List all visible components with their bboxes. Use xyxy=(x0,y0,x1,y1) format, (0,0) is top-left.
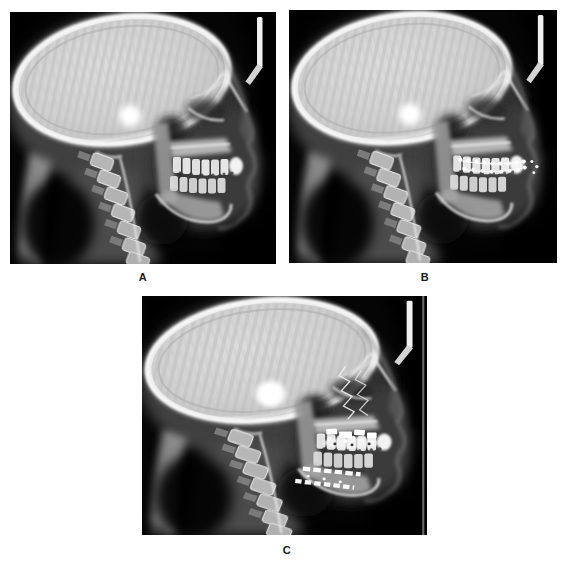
film-edge-line xyxy=(422,296,424,535)
skull-xray-drawing xyxy=(289,10,557,263)
radiograph-image-b xyxy=(289,10,557,263)
panel-label-b: B xyxy=(421,272,429,283)
skull-xray-drawing xyxy=(142,296,427,535)
skull-xray-drawing xyxy=(10,12,276,264)
radiograph-panel-a xyxy=(10,12,276,264)
radiograph-image-c xyxy=(142,296,427,535)
panel-label-c: C xyxy=(283,545,291,556)
radiograph-figure: A B C xyxy=(0,0,569,562)
radiograph-panel-b xyxy=(289,10,557,263)
radiograph-panel-c xyxy=(142,296,427,535)
panel-label-a: A xyxy=(139,272,147,283)
radiograph-image-a xyxy=(10,12,276,264)
